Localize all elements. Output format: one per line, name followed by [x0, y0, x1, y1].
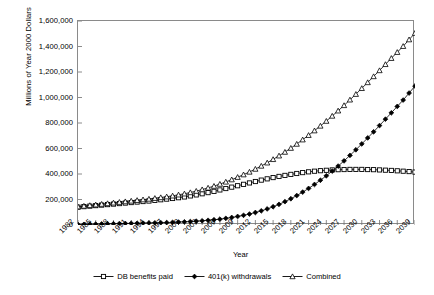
- x-tick-label: 2030: [341, 217, 359, 235]
- legend-marker-open-triangle-icon: [282, 272, 303, 281]
- x-tick-label: 2024: [305, 217, 323, 235]
- legend-label: 401(k) withdrawals: [208, 272, 271, 281]
- x-tick-label: 2039: [394, 217, 412, 235]
- retirement-income-line-chart: Millions of Year 2000 Dollars 0200,00040…: [0, 0, 434, 295]
- legend-label: DB benefits paid: [117, 272, 173, 281]
- x-tick-label: 2000: [163, 217, 181, 235]
- x-tick-label: 2009: [217, 217, 235, 235]
- x-axis-title: Year: [233, 250, 248, 259]
- chart-legend: DB benefits paid401(k) withdrawalsCombin…: [0, 272, 434, 281]
- legend-marker-open-square-icon: [93, 272, 114, 281]
- x-tick-label: 2003: [181, 217, 199, 235]
- x-tick-label: 2018: [270, 217, 288, 235]
- legend-item-2[interactable]: 401(k) withdrawals: [184, 272, 271, 281]
- x-tick-label: 2027: [323, 217, 341, 235]
- x-tick-label: 1991: [110, 217, 128, 235]
- x-tick-label: 2006: [199, 217, 217, 235]
- x-tick-label: 2021: [288, 217, 306, 235]
- x-tick-label: 1988: [92, 217, 110, 235]
- x-tick-label: 1997: [146, 217, 164, 235]
- legend-item-1[interactable]: DB benefits paid: [93, 272, 173, 281]
- x-tick-label: 1982: [57, 217, 75, 235]
- x-tick-label: 1985: [75, 217, 93, 235]
- x-tick-label: 2036: [376, 217, 394, 235]
- x-axis-tick-labels: 1982198519881991199419972000200320062009…: [0, 0, 434, 295]
- x-tick-label: 1994: [128, 217, 146, 235]
- legend-item-3[interactable]: Combined: [282, 272, 341, 281]
- x-tick-label: 2012: [234, 217, 252, 235]
- x-tick-label: 2033: [359, 217, 377, 235]
- x-tick-label: 2015: [252, 217, 270, 235]
- legend-label: Combined: [306, 272, 341, 281]
- legend-marker-filled-diamond-icon: [184, 272, 205, 281]
